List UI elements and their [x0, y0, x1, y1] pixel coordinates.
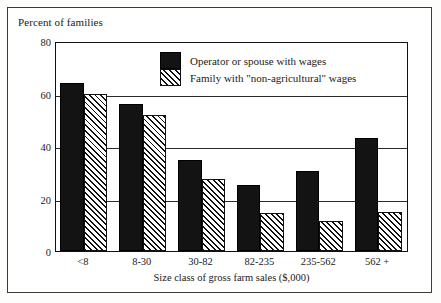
- bar-operator-5: [355, 138, 379, 251]
- bar-operator-1: [119, 104, 143, 251]
- bar-family-1: [143, 115, 167, 252]
- y-axis-title: Percent of families: [18, 16, 103, 28]
- bar-operator-4: [296, 171, 320, 251]
- y-axis-tick-labels: 020406080: [13, 42, 51, 252]
- bar-operator-3: [237, 185, 261, 251]
- chart-legend: Operator or spouse with wagesFamily with…: [160, 52, 356, 86]
- legend-item-0: Operator or spouse with wages: [160, 52, 356, 69]
- x-tick-label-3: 82-235: [245, 256, 275, 267]
- bar-family-4: [319, 221, 343, 251]
- chart-figure: Percent of families 020406080 <88-3030-8…: [0, 0, 441, 303]
- y-tick-label-60: 60: [17, 89, 51, 100]
- legend-label-0: Operator or spouse with wages: [190, 55, 326, 67]
- legend-swatch-solid: [160, 52, 181, 69]
- bar-family-3: [260, 213, 284, 251]
- x-tick-label-0: <8: [77, 256, 88, 267]
- legend-swatch-hatch: [160, 69, 181, 86]
- bar-family-2: [202, 179, 226, 251]
- gridline-60: [56, 96, 407, 97]
- y-tick-label-0: 0: [17, 247, 51, 258]
- x-tick-label-1: 8-30: [132, 256, 151, 267]
- legend-item-1: Family with "non-agricultural" wages: [160, 69, 356, 86]
- x-axis-title: Size class of gross farm sales ($,000): [55, 272, 408, 283]
- y-tick-label-80: 80: [17, 37, 51, 48]
- x-tick-label-4: 235-562: [301, 256, 336, 267]
- bar-family-5: [378, 212, 402, 251]
- y-tick-label-40: 40: [17, 142, 51, 153]
- y-tick-label-20: 20: [17, 194, 51, 205]
- legend-label-1: Family with "non-agricultural" wages: [190, 72, 356, 84]
- bar-family-0: [84, 94, 108, 252]
- bar-operator-0: [60, 83, 84, 251]
- x-tick-label-2: 30-82: [188, 256, 213, 267]
- x-tick-label-5: 562 +: [365, 256, 389, 267]
- bar-operator-2: [178, 160, 202, 251]
